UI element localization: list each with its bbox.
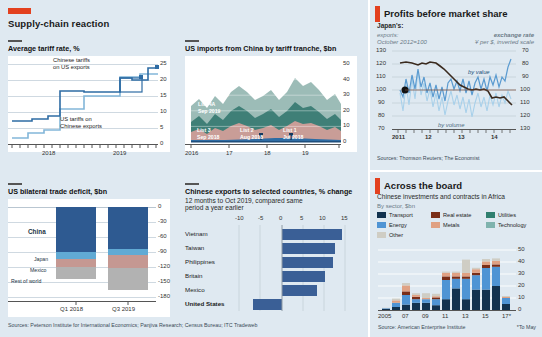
red-tab-marker-vertical xyxy=(375,178,380,194)
ytick: 50 xyxy=(343,60,350,66)
x-ticks xyxy=(8,145,160,151)
ytick: 0 xyxy=(343,138,346,144)
xtick: 2005 xyxy=(378,313,391,319)
ytick-left: 70 xyxy=(378,125,385,131)
xtick: 15 xyxy=(341,215,348,221)
xtick: Q1 2018 xyxy=(60,306,83,312)
board-title: Across the board xyxy=(384,180,462,191)
annotation-by-volume: by volume xyxy=(438,122,464,128)
catlabel-britain: Britain xyxy=(185,272,203,279)
page-title: Supply-chain reaction xyxy=(8,18,109,29)
list2-name: List 2 xyxy=(240,127,263,134)
sources-left: Sources: Peterson Institute for Internat… xyxy=(8,322,257,328)
chart-tariff-header: Average tariff rate, % xyxy=(8,40,80,53)
chart-exports-subtitle-2: period a year earlier xyxy=(185,204,352,211)
chart-imports-header: US imports from China by tariff tranche,… xyxy=(185,40,336,53)
catlabel-taiwan: Taiwan xyxy=(185,244,204,251)
legend-swatch-real-estate xyxy=(431,212,440,218)
list4a-name: List 4A xyxy=(198,101,221,108)
ytick-right: 100 xyxy=(520,86,530,92)
profits-left-label-2: October 2012=100 xyxy=(377,39,427,45)
label-list2: List 2 Aug 2018 xyxy=(240,127,263,141)
xtick: 17* xyxy=(502,313,511,319)
legend-swatch-metals xyxy=(431,222,440,228)
ytick: 5 xyxy=(160,124,163,130)
ytick: 25 xyxy=(160,60,167,66)
ytick: -90 xyxy=(158,248,167,254)
list4b-name: List 4B xyxy=(198,77,229,84)
bar-q1-japan xyxy=(56,252,96,259)
legend-label-transport: Transport xyxy=(389,212,413,218)
ytick-left: 130 xyxy=(376,47,386,53)
legend-label-utilities: Utilities xyxy=(498,212,516,218)
xtick: 13 xyxy=(458,134,465,140)
bar-q3-rest xyxy=(108,268,148,290)
gridline xyxy=(8,297,156,298)
annotation-chinese-tariffs: Chinese tariffs on US exports xyxy=(53,57,90,71)
label-list4b: List 4B Dec 2019 (suspended) xyxy=(198,77,229,97)
board-bars xyxy=(378,244,536,318)
xtick: 5 xyxy=(300,215,303,221)
xtick: 2018 xyxy=(42,150,55,156)
chart-deficit-title: US bilateral trade deficit, $bn xyxy=(8,187,107,196)
ytick-right: 80 xyxy=(522,60,529,66)
xtick: -10 xyxy=(235,215,244,221)
ytick: 10 xyxy=(518,294,525,300)
panel-supply-chain: Supply-chain reaction Average tariff rat… xyxy=(0,0,368,337)
label-list1: List 1 Jul 2018 xyxy=(283,127,303,141)
catlabel-united-states: United States xyxy=(185,300,225,307)
xtick: 2016 xyxy=(185,150,198,156)
bar-q3-china xyxy=(108,207,148,249)
profits-title: Profits before market share xyxy=(384,8,508,19)
ytick: -180 xyxy=(158,293,170,299)
xtick: 09 xyxy=(422,313,429,319)
profits-left-label-1: exports: xyxy=(377,32,398,38)
xtick: 19 xyxy=(302,150,309,156)
xtick: 13 xyxy=(462,313,469,319)
ytick: 20 xyxy=(160,76,167,82)
xtick: 17 xyxy=(226,150,233,156)
list4b-note: (suspended) xyxy=(198,91,229,98)
ytick-left: 90 xyxy=(378,99,385,105)
title-rule xyxy=(185,40,199,42)
label-rest-of-world: Rest of world xyxy=(11,278,41,285)
ytick: 10 xyxy=(160,108,167,114)
red-tab-marker xyxy=(8,8,31,14)
chart-tariff-title: Average tariff rate, % xyxy=(8,44,80,53)
xtick: Q3 2019 xyxy=(112,306,135,312)
chart-exports-header: Chinese exports to selected countries, %… xyxy=(185,183,352,211)
board-subtitle: Chinese investments and contracts in Afr… xyxy=(377,193,505,200)
annotation-by-value: by value xyxy=(468,69,490,75)
ytick: -150 xyxy=(158,278,170,284)
legend-label-real-estate: Real estate xyxy=(443,212,471,218)
list1-name: List 1 xyxy=(283,127,303,134)
chart-exports-subtitle-1: 12 months to Oct 2019, compared same xyxy=(185,197,352,204)
list4a-date: Sep 2019 xyxy=(198,108,221,115)
legend-swatch-energy xyxy=(377,222,386,228)
bar-q1-china xyxy=(56,207,96,252)
catlabel-mexico: Mexico xyxy=(185,286,205,293)
ytick-right: 110 xyxy=(520,99,530,105)
ytick: 0 xyxy=(518,306,521,312)
xtick: 10 xyxy=(319,215,326,221)
infographic-page: Supply-chain reaction Average tariff rat… xyxy=(0,0,542,337)
label-china: China xyxy=(28,228,46,236)
legend-swatch-technology xyxy=(486,222,495,228)
bar-q1-rest xyxy=(56,267,96,279)
legend-swatch-utilities xyxy=(486,212,495,218)
board-units: By sector, $bn xyxy=(377,203,415,209)
xtick: 18 xyxy=(264,150,271,156)
x-axis xyxy=(378,310,516,311)
title-rule xyxy=(185,183,199,185)
xtick: 2019 xyxy=(113,150,126,156)
label-list3: List 3 Sep 2018 xyxy=(197,127,220,141)
ytick-right: 120 xyxy=(520,112,530,118)
xtick: 0 xyxy=(279,215,282,221)
ytick-right: 90 xyxy=(522,73,529,79)
ytick: -120 xyxy=(158,263,170,269)
list1-date: Jul 2018 xyxy=(283,134,303,141)
xtick: 15 xyxy=(482,313,489,319)
ytick: 20 xyxy=(518,282,525,288)
ytick: 0 xyxy=(160,140,163,146)
chart-deficit-header: US bilateral trade deficit, $bn xyxy=(8,183,107,196)
